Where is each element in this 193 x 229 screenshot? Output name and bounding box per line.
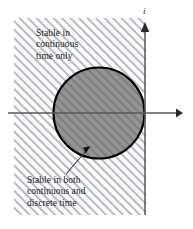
caption-both-line-3: discrete time	[27, 198, 85, 209]
caption-continuous-line-1: Stable in	[36, 28, 78, 39]
stability-region-figure: i Stable in continuous time only Stable …	[0, 0, 193, 229]
real-axis-arrowhead	[176, 109, 183, 118]
caption-both-continuous-and-discrete: Stable in both continuous and discrete t…	[27, 175, 85, 209]
caption-both-line-2: continuous and	[27, 186, 85, 197]
imaginary-axis-label: i	[143, 6, 146, 16]
caption-continuous-line-3: time only	[36, 51, 78, 62]
caption-both-line-1: Stable in both	[27, 175, 85, 186]
caption-continuous-time-only: Stable in continuous time only	[36, 28, 78, 62]
caption-continuous-line-2: continuous	[36, 39, 78, 50]
